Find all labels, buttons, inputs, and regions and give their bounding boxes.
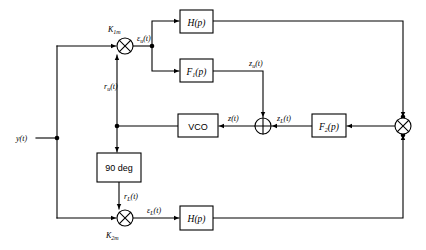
wire-layer bbox=[36, 21, 403, 218]
signal-label-z: z(t) bbox=[227, 114, 239, 123]
gain-label-k1m: K1m bbox=[107, 25, 121, 35]
block-h-bottom-label: H(p) bbox=[187, 214, 206, 225]
operator-layer bbox=[117, 38, 411, 226]
signal-label-r-l: rL(t) bbox=[124, 192, 138, 202]
signal-label-eps-u: εu(t) bbox=[137, 34, 151, 44]
signal-label-z-l: zL(t) bbox=[276, 114, 291, 124]
gain-label-k2m-sub: 2m bbox=[111, 235, 119, 241]
wire-eps-u-to-h-top bbox=[152, 21, 179, 46]
signal-label-z-tail: (t) bbox=[231, 114, 239, 123]
junction-dot-vco-split bbox=[115, 124, 120, 129]
block-h-top-label: H(p) bbox=[187, 18, 206, 29]
multiplier-k2m[interactable] bbox=[117, 210, 133, 226]
block-ninety-deg-label: 90 deg bbox=[105, 163, 133, 173]
block-h-bottom[interactable]: H(p) bbox=[180, 206, 213, 230]
gain-label-k1m-sub: 1m bbox=[113, 29, 121, 35]
signal-label-eps-l: εL(t) bbox=[147, 206, 161, 216]
block-f2-label: F2(p) bbox=[318, 122, 339, 133]
block-f1-label-tail: (p) bbox=[195, 67, 206, 78]
multiplier-right[interactable] bbox=[395, 118, 411, 134]
block-vco[interactable]: VCO bbox=[178, 114, 218, 137]
gain-label-k2m: K2m bbox=[105, 231, 119, 241]
block-f1-label: F1(p) bbox=[186, 67, 207, 78]
wire-eps-u-to-f1 bbox=[152, 46, 179, 71]
signal-label-y-tail: (t) bbox=[20, 134, 28, 143]
signal-label-eps-u-tail: (t) bbox=[143, 34, 151, 43]
block-f1[interactable]: F1(p) bbox=[180, 59, 213, 82]
signal-label-z-u-tail: (t) bbox=[255, 59, 263, 68]
multiplier-k1m[interactable] bbox=[117, 38, 133, 54]
block-diagram-canvas: H(p) F1(p) VCO F2(p) bbox=[0, 0, 426, 250]
wire-h-bottom-to-mult-right bbox=[213, 135, 403, 218]
summing-junction[interactable] bbox=[255, 118, 271, 134]
junction-dot-eps-u-split bbox=[150, 44, 155, 49]
block-f2[interactable]: F2(p) bbox=[312, 114, 346, 137]
wire-f1-to-summer bbox=[213, 71, 263, 117]
signal-label-r-u: ru(t) bbox=[104, 82, 118, 92]
block-ninety-deg[interactable]: 90 deg bbox=[97, 153, 141, 182]
signal-label-r-u-tail: (t) bbox=[110, 82, 118, 91]
signal-label-z-l-tail: (t) bbox=[283, 114, 291, 123]
signal-label-z-u: zu(t) bbox=[248, 59, 263, 69]
diagram-svg: H(p) F1(p) VCO F2(p) bbox=[0, 0, 426, 250]
junction-dot-y-split bbox=[55, 136, 60, 141]
signal-label-r-l-tail: (t) bbox=[130, 192, 138, 201]
block-h-top[interactable]: H(p) bbox=[180, 10, 213, 33]
block-vco-label: VCO bbox=[188, 122, 208, 132]
wire-h-top-to-mult-right bbox=[213, 21, 403, 117]
signal-label-y: y(t) bbox=[15, 134, 27, 143]
signal-label-eps-l-tail: (t) bbox=[154, 206, 162, 215]
block-f2-label-tail: (p) bbox=[328, 122, 339, 133]
